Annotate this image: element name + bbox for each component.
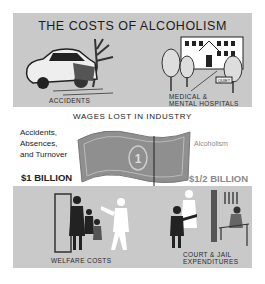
- hospitals-label-line1: MEDICAL &: [169, 93, 207, 100]
- bottom-panel: WELFARE COSTS COURT & JAIL EXPENDITURES: [13, 186, 252, 268]
- top-panel: THE COSTS OF ALCOHOLISM ACCIDENTS QUIET …: [13, 13, 252, 107]
- accidents-label: ACCIDENTS: [49, 97, 90, 104]
- right-label: Alcoholism: [194, 140, 228, 147]
- hospitals-label-line2: MENTAL HOSPITALS: [169, 100, 239, 107]
- welfare-label: WELFARE COSTS: [51, 257, 111, 264]
- dollar-bill-icon: 1: [74, 124, 194, 186]
- court-label-line1: COURT & JAIL: [183, 251, 232, 258]
- svg-text:1: 1: [135, 152, 142, 166]
- quiet-sign: QUIET: [218, 78, 231, 83]
- court-label-line2: EXPENDITURES: [183, 258, 238, 265]
- right-amount: $1/2 BILLION: [189, 173, 248, 184]
- hospital-icon: QUIET: [161, 35, 251, 95]
- court-jail-icon: [163, 188, 253, 250]
- wages-title: WAGES LOST IN INDUSTRY: [0, 112, 265, 121]
- left-description: Accidents, Absences, and Turnover: [20, 127, 67, 160]
- page-title: THE COSTS OF ALCOHOLISM: [13, 19, 252, 33]
- welfare-family-icon: [51, 192, 141, 254]
- left-amount: $1 BILLION: [21, 172, 72, 183]
- car-crash-icon: [23, 37, 123, 97]
